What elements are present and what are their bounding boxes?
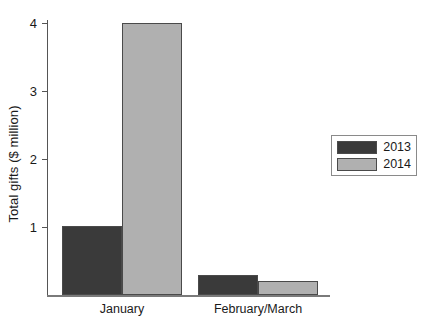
bar bbox=[258, 281, 318, 295]
y-axis-tick bbox=[42, 91, 47, 92]
bar bbox=[62, 226, 122, 295]
bar-chart: Total gifts ($ million) 1234JanuaryFebru… bbox=[0, 0, 433, 328]
bar bbox=[198, 275, 258, 295]
x-axis-category-label: January bbox=[100, 302, 144, 316]
x-axis-line bbox=[47, 295, 330, 297]
x-axis-category-label: February/March bbox=[214, 302, 302, 316]
legend-label-2014: 2014 bbox=[383, 158, 411, 171]
y-axis-tick bbox=[42, 159, 47, 160]
y-axis-tick-label: 4 bbox=[19, 16, 37, 31]
y-axis-tick-label: 2 bbox=[19, 152, 37, 167]
legend-swatch-2014 bbox=[337, 158, 377, 171]
y-axis-tick-label: 1 bbox=[19, 220, 37, 235]
y-axis-tick bbox=[42, 227, 47, 228]
y-axis-tick-label: 3 bbox=[19, 84, 37, 99]
y-axis-tick bbox=[42, 23, 47, 24]
legend-swatch-2013 bbox=[337, 141, 377, 154]
legend-item: 2013 bbox=[337, 140, 411, 155]
legend-label-2013: 2013 bbox=[383, 141, 411, 154]
legend-item: 2014 bbox=[337, 157, 411, 172]
y-axis-line bbox=[47, 20, 48, 295]
bar bbox=[122, 23, 182, 295]
chart-legend: 2013 2014 bbox=[331, 135, 417, 176]
